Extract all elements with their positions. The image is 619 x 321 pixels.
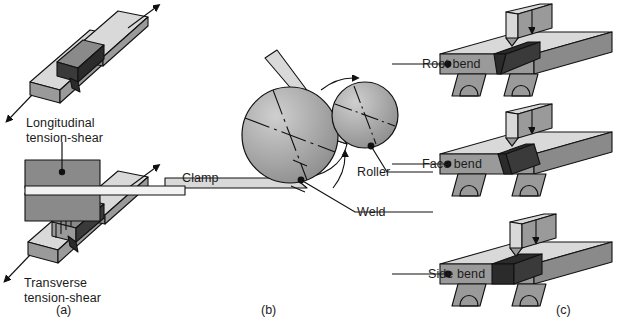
panel-a-label: (a) [56, 303, 71, 317]
panel-b-graphics [175, 60, 425, 320]
face-bend-label: Face bend [422, 157, 482, 171]
t-tension-arrow-down [8, 255, 30, 278]
clamp-label: Clamp [182, 171, 219, 185]
longitudinal-label-line2: tension-shear [26, 131, 103, 145]
weld-label: Weld [357, 205, 386, 219]
clamp-lower-jaw [25, 193, 100, 221]
side-weld-face [492, 264, 514, 284]
clamped-strip [25, 186, 185, 195]
side-bend-label: Side bend [428, 267, 485, 281]
roller-label: Roller [357, 165, 390, 179]
longitudinal-specimen [10, 8, 155, 118]
transverse-label-line1: Transverse [24, 276, 87, 290]
longitudinal-label-line1: Longitudinal [26, 116, 95, 130]
tension-arrow-down [10, 95, 32, 118]
panel-b-label: (b) [261, 303, 276, 317]
panel-a-graphics [0, 0, 200, 300]
panel-c-label: (c) [556, 303, 571, 317]
roller-large [242, 87, 338, 183]
clamp-leader-dot [59, 169, 65, 175]
roller-small [332, 82, 398, 148]
welding-test-figure: Longitudinal tension-shear Transverse te… [0, 0, 619, 321]
root-bend-label: Root bend [422, 57, 481, 71]
